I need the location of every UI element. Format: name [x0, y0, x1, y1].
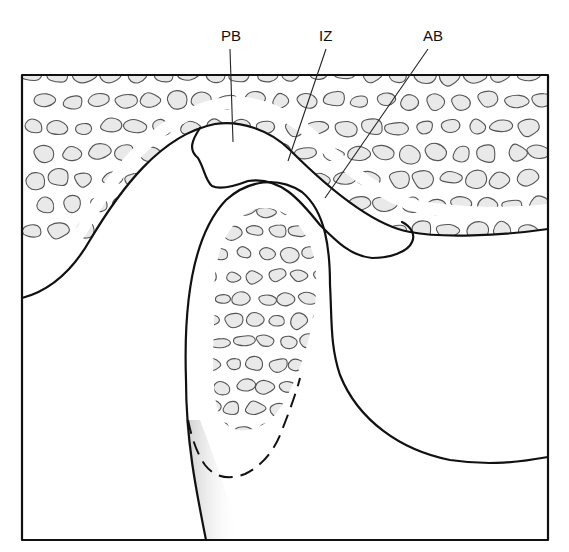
- trabecula: [168, 144, 186, 160]
- trabecula: [76, 124, 92, 135]
- trabecula: [291, 313, 308, 330]
- trabecula: [279, 382, 297, 393]
- trabecula: [180, 170, 204, 184]
- trabecula: [477, 145, 495, 163]
- trabecula: [279, 202, 297, 214]
- trabecula: [290, 270, 308, 281]
- trabecula: [314, 270, 329, 281]
- trabecula: [227, 359, 241, 370]
- trabecula: [362, 222, 380, 236]
- trabecula: [214, 382, 230, 395]
- trabecula: [298, 292, 316, 304]
- trabecula: [269, 269, 286, 282]
- trabecula: [232, 292, 250, 306]
- trabecula: [34, 94, 56, 107]
- trabecula: [215, 295, 230, 304]
- trabecula: [167, 91, 187, 110]
- trabecula: [334, 67, 355, 79]
- trabecula: [326, 199, 345, 211]
- trabecula: [22, 225, 40, 237]
- trabecula: [202, 358, 221, 371]
- trabecula: [246, 312, 264, 326]
- trabecula: [48, 169, 68, 186]
- trabecula: [203, 269, 216, 282]
- trabecula: [269, 225, 286, 237]
- trabecula: [281, 336, 297, 348]
- condyle-trabeculae: [200, 202, 331, 437]
- label-iz-text: IZ: [319, 27, 332, 44]
- trabecula: [192, 201, 212, 214]
- trabecula: [210, 339, 230, 348]
- trabecula: [236, 203, 256, 215]
- trabecula: [256, 335, 274, 346]
- tmj-diagram: PB IZ AB: [0, 0, 569, 552]
- trabecula: [227, 272, 241, 282]
- trabecula: [387, 225, 407, 238]
- trabecula: [142, 196, 159, 212]
- trabecula: [269, 315, 284, 326]
- trabecula: [532, 94, 553, 107]
- trabecula: [441, 119, 460, 132]
- trabecula: [204, 400, 221, 413]
- trabecula: [288, 359, 306, 371]
- trabecula: [245, 356, 262, 370]
- trabecula: [181, 224, 201, 236]
- trabecula: [311, 356, 330, 371]
- trabecula: [417, 121, 433, 134]
- condyle: [186, 202, 331, 540]
- trabecula: [233, 336, 255, 346]
- trabecula: [223, 401, 238, 414]
- trabecula: [278, 424, 298, 437]
- trabecula: [115, 95, 137, 109]
- trabecula: [218, 146, 238, 157]
- trabecula: [269, 359, 287, 373]
- trabecula: [164, 200, 184, 212]
- trabecula: [151, 173, 174, 187]
- trabecula: [300, 334, 318, 348]
- trabecula: [177, 65, 199, 80]
- trabecula: [152, 219, 172, 236]
- trabecula: [338, 226, 357, 238]
- trabecula: [37, 197, 54, 213]
- trabecula: [246, 226, 263, 236]
- trabecula: [280, 248, 299, 263]
- trabecula: [401, 95, 419, 111]
- trabecula: [277, 293, 295, 306]
- trabecula: [288, 226, 307, 237]
- trabecula: [259, 424, 274, 437]
- trabecula: [257, 208, 277, 218]
- trabecula: [200, 315, 219, 326]
- label-pb-text: PB: [221, 27, 241, 44]
- trabecula: [302, 247, 319, 259]
- trabecula: [385, 123, 409, 135]
- trabecula: [216, 423, 229, 435]
- trabecula: [259, 248, 275, 260]
- trabecula: [245, 142, 267, 159]
- label-ab-text: AB: [423, 27, 443, 44]
- trabecula: [309, 404, 329, 416]
- trabecula: [229, 65, 249, 82]
- trabecula: [271, 144, 291, 159]
- trabecula: [112, 196, 132, 211]
- trabecula: [214, 249, 228, 260]
- trabecula: [235, 427, 254, 438]
- trabecula: [259, 295, 277, 305]
- trabecula: [26, 173, 45, 190]
- trabecula: [21, 67, 42, 81]
- trabecula: [237, 379, 256, 391]
- trabecula: [246, 271, 262, 284]
- trabecula: [101, 226, 118, 240]
- trabecula: [64, 195, 81, 212]
- trabecula: [224, 226, 242, 240]
- trabecula: [467, 222, 489, 240]
- trabecula: [245, 401, 266, 414]
- trabecula: [313, 312, 329, 325]
- trabecula: [310, 225, 331, 236]
- trabecula: [301, 380, 318, 394]
- trabecula: [225, 313, 243, 327]
- trabecula: [255, 380, 274, 394]
- trabecula: [283, 172, 307, 189]
- trabecula: [301, 425, 319, 436]
- trabecula: [237, 247, 251, 258]
- trabecula: [270, 403, 287, 416]
